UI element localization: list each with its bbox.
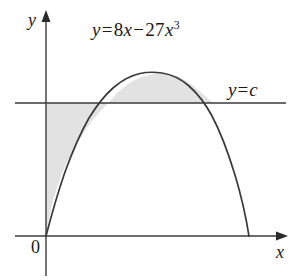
y-axis-label: y (28, 11, 36, 29)
equation-coefficient-cubic: 27 (145, 19, 165, 40)
line-label-rhs: c (249, 79, 257, 100)
origin-label: 0 (31, 238, 40, 256)
equation-var-cubic: x (165, 19, 174, 40)
shaded-region-left (46, 103, 109, 236)
line-label-equals: = (236, 79, 249, 100)
equation-minus: − (132, 19, 145, 40)
x-axis-label: x (276, 243, 284, 261)
y-axis-arrowhead (42, 10, 51, 22)
calculus-figure: y=8x−27x3 y=c y x 0 (0, 0, 296, 280)
figure-canvas (0, 0, 296, 280)
x-axis-arrowhead (276, 232, 288, 241)
equation-coefficient-linear: 8 (114, 19, 124, 40)
shaded-region-upper (109, 74, 213, 104)
equation-var-linear: x (124, 19, 133, 40)
equation-lhs: y (92, 19, 101, 40)
equation-equals: = (101, 19, 114, 40)
equation-exponent-cubic: 3 (174, 19, 180, 32)
curve-equation-label: y=8x−27x3 (92, 20, 180, 39)
line-equation-label: y=c (228, 80, 258, 99)
